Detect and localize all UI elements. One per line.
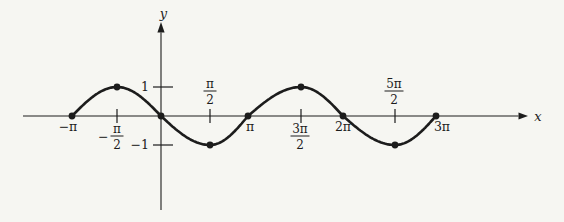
axes: xy — [23, 6, 542, 211]
fraction-numerator: 5π — [386, 77, 402, 91]
data-point-dot — [207, 142, 214, 149]
data-point-dot — [392, 142, 399, 149]
x-tick-label: −π — [59, 119, 78, 134]
y-tick-label: −1 — [131, 137, 149, 152]
x-tick-fraction-label: −π2 — [98, 122, 123, 152]
fraction-denominator: 2 — [296, 138, 304, 152]
data-point-dot — [433, 113, 440, 120]
y-axis-label: y — [159, 6, 168, 21]
y-tick-label: 1 — [141, 79, 149, 94]
sine-curve-plot: xy−π−π2π2π3π22π5π23π1−1 — [0, 0, 564, 222]
y-axis-arrowhead-icon — [157, 22, 164, 33]
data-point-dot — [158, 113, 165, 120]
x-tick-label: 3π — [434, 119, 450, 134]
x-axis-label: x — [534, 109, 542, 124]
data-point-dot — [69, 113, 76, 120]
x-tick-fraction-label: π2 — [204, 77, 217, 107]
fraction-numerator: 3π — [292, 122, 308, 136]
data-point-dot — [340, 113, 347, 120]
fraction-numerator: π — [206, 77, 214, 91]
x-axis-arrowhead-icon — [519, 112, 529, 119]
data-point-dot — [114, 84, 121, 91]
fraction-numerator: π — [113, 122, 121, 136]
fraction-denominator: 2 — [206, 93, 214, 107]
data-point-dot — [298, 84, 305, 91]
x-tick-fraction-label: 3π2 — [291, 122, 310, 152]
x-tick-fraction-label: 5π2 — [385, 77, 404, 107]
x-tick-label: π — [246, 119, 254, 134]
fraction-denominator: 2 — [113, 138, 121, 152]
data-point-dot — [245, 113, 252, 120]
fraction-sign: − — [98, 129, 108, 144]
fraction-denominator: 2 — [390, 93, 398, 107]
figure-canvas: xy−π−π2π2π3π22π5π23π1−1 — [0, 0, 564, 222]
